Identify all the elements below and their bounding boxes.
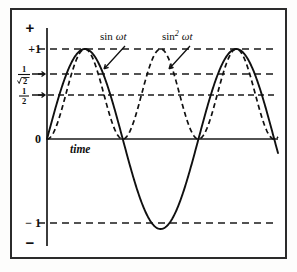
grid-lines [38, 49, 278, 223]
y-tick-label-minus-one: − 1 [25, 216, 41, 230]
y-tick-label-one-over-root-two: 1 2 [18, 64, 31, 86]
tick-arrow-one-half [32, 92, 45, 97]
sin-wt-label-text: sinωt [100, 30, 128, 42]
x-axis-label: time [70, 143, 90, 155]
y-tick-label-plus-one: +1 [28, 42, 41, 56]
y-axis-positive-sign: + [26, 19, 35, 36]
sin-squared-wt-argument-text: ωt [182, 30, 194, 42]
tick-arrow-one-over-root-two [32, 71, 45, 76]
curve-sin-squared-wt [47, 49, 278, 139]
one-half-denominator: 2 [22, 96, 26, 106]
one-over-root-two-denominator: 2 [23, 76, 27, 86]
one-over-root-two-numerator: 1 [22, 64, 26, 74]
x-axis-origin-label: 0 [35, 132, 41, 146]
figure-root: + +1 0 − 1 − 1 2 1 2 time [0, 0, 297, 272]
curve-annotation-sin-wt: sinωt [100, 30, 128, 42]
sin-squared-wt-function-text: sin [162, 30, 175, 42]
y-axis-labels: + +1 0 − 1 − [25, 19, 41, 251]
sin-wt-argument-text: ωt [116, 30, 128, 42]
y-axis-negative-sign: − [26, 234, 35, 251]
sin-squared-wt-exponent: 2 [175, 29, 179, 38]
sin-wt-function-text: sin [100, 30, 113, 42]
one-half-numerator: 1 [22, 86, 26, 96]
waveform-plot: + +1 0 − 1 − 1 2 1 2 time [12, 10, 285, 257]
y-tick-label-one-half: 1 2 [19, 86, 29, 106]
tick-arrows [32, 71, 45, 97]
plot-frame: + +1 0 − 1 − 1 2 1 2 time [10, 8, 287, 259]
axes [47, 28, 278, 246]
curve-annotation-sin-squared-wt: sin2ωt [162, 29, 194, 42]
sin-squared-wt-label-text: sin2ωt [162, 29, 194, 42]
